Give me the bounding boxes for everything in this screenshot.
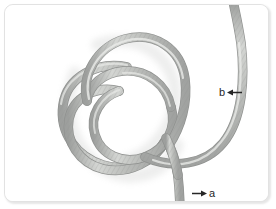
annotation-b-label: b bbox=[219, 87, 225, 98]
arrow-right-icon bbox=[191, 188, 207, 199]
annotation-a-label: a bbox=[209, 188, 215, 199]
annotation-a: a bbox=[191, 188, 215, 199]
arrow-left-icon bbox=[227, 87, 243, 98]
rope-knot-illustration bbox=[5, 5, 269, 202]
figure-frame: b a bbox=[4, 4, 269, 202]
annotation-b: b bbox=[219, 87, 243, 98]
